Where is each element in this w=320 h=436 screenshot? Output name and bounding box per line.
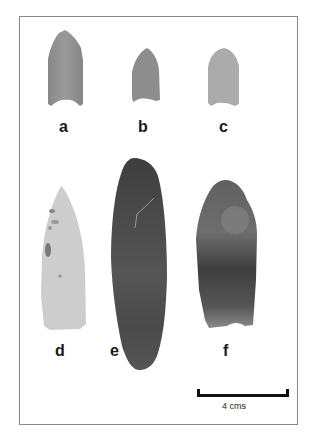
scale-bar xyxy=(197,389,289,397)
artifact-b-label: b xyxy=(138,119,148,135)
artifact-e-image xyxy=(110,158,168,371)
artifact-a-image xyxy=(47,30,84,107)
artifact-f-label: f xyxy=(223,343,228,359)
scale-bar-label: 4 cms xyxy=(222,401,246,411)
artifact-a-label: a xyxy=(59,119,68,135)
artifact-b-image xyxy=(131,48,161,102)
artifact-e-label: e xyxy=(110,343,119,359)
artifact-d-image xyxy=(40,186,87,331)
artifact-d-label: d xyxy=(55,343,65,359)
scale-bar-right-tick xyxy=(286,389,289,397)
artifact-c-label: c xyxy=(219,119,228,135)
scale-bar-line xyxy=(197,394,289,397)
scale-bar-left-tick xyxy=(197,389,200,397)
artifact-c-image xyxy=(207,48,240,106)
artifact-f-image xyxy=(195,180,258,329)
